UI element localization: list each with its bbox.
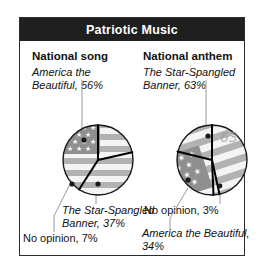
watermark-63: 63 [220,129,238,145]
pie-chart-national-anthem: ★★★★ ★★★ ★★★★ ★★★ 63 [174,122,250,198]
pie-chart-area: ★★★★ ★★★ ★★★★ ★★★ [20,18,244,255]
pie-chart-national-song: ★★★★ ★★★ ★★★★ ★★★ [60,122,136,198]
infographic-panel: Patriotic Music National song National a… [19,17,245,256]
